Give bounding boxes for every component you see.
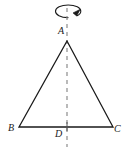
geometry-figure: A B C D bbox=[0, 0, 129, 155]
vertex-label-d: D bbox=[55, 129, 62, 139]
vertex-label-c: C bbox=[114, 124, 121, 134]
vertex-label-a: A bbox=[58, 26, 64, 36]
triangle-abc bbox=[19, 41, 113, 127]
vertex-label-b: B bbox=[8, 123, 14, 133]
figure-svg bbox=[0, 0, 129, 155]
rotation-arrow-icon bbox=[56, 5, 81, 18]
